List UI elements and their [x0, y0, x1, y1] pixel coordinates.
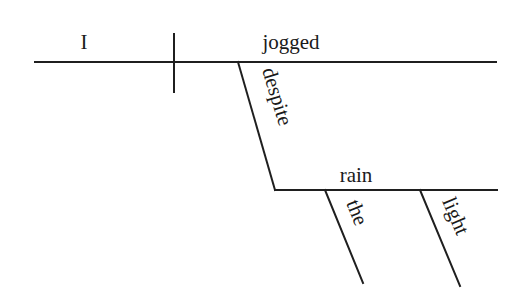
modifier-light-word: light	[437, 194, 474, 239]
subject-word: I	[81, 30, 88, 54]
modifier-the-word: the	[341, 196, 373, 229]
sentence-diagram: I jogged despite rain the light	[0, 0, 522, 294]
object-word: rain	[340, 163, 373, 187]
verb-word: jogged	[261, 30, 320, 54]
preposition-word: despite	[257, 64, 297, 128]
